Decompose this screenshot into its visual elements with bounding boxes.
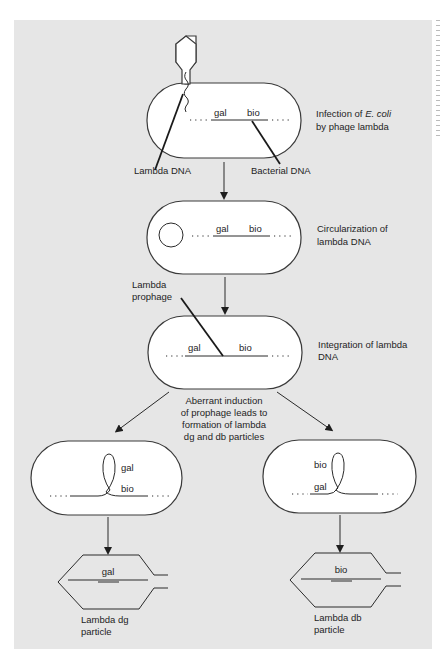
step-dg-particle: gal Lambda dg particle xyxy=(58,555,168,637)
caption-induction-line1: Aberrant induction xyxy=(185,395,262,406)
caption-infection-line2: by phage lambda xyxy=(316,121,390,132)
caption-dg-line1: Lambda dg xyxy=(81,614,129,625)
ecoli-cell xyxy=(263,440,416,513)
gene-label-bio: bio xyxy=(121,483,134,494)
gene-label-gal: gal xyxy=(216,223,229,234)
step-circularization: gal bio Circularization of lambda DNA xyxy=(147,201,388,274)
gene-label-bio: bio xyxy=(335,564,348,575)
caption-db-line2: particle xyxy=(314,624,345,635)
callout-lambda: Lambda xyxy=(132,279,167,290)
arrow-to-db xyxy=(277,392,330,429)
gene-label-gal: gal xyxy=(121,462,134,473)
caption-infection-line1: Infection of E. coli xyxy=(316,108,392,119)
ecoli-cell xyxy=(148,316,302,389)
step-integration: gal bio Lambda prophage Integration of l… xyxy=(132,279,408,389)
step-dg-excision: gal bio xyxy=(31,441,182,515)
gene-label-bio: bio xyxy=(247,107,260,118)
gene-label-bio: bio xyxy=(314,459,327,470)
gene-label-bio: bio xyxy=(239,342,252,353)
phage-head-db xyxy=(290,553,386,607)
arrow-to-dg xyxy=(118,392,169,430)
caption-integration-line2: DNA xyxy=(318,351,339,362)
gene-label-gal: gal xyxy=(314,481,327,492)
caption-integration-line1: Integration of lambda xyxy=(318,339,408,350)
step-infection: gal bio Lambda DNA Bacterial DNA Infecti… xyxy=(76,0,392,176)
caption-circularization-line2: lambda DNA xyxy=(317,236,372,247)
caption-induction-line2: of prophage leads to xyxy=(181,407,268,418)
callout-prophage: prophage xyxy=(132,291,172,302)
callout-lambda-dna: Lambda DNA xyxy=(134,165,192,176)
callout-bacterial-dna: Bacterial DNA xyxy=(251,165,311,176)
gene-label-gal: gal xyxy=(188,342,201,353)
step-db-excision: bio gal xyxy=(263,440,416,513)
caption-induction-line3: formation of lambda xyxy=(182,419,267,430)
gene-label-gal: gal xyxy=(102,566,115,577)
gene-label-gal: gal xyxy=(214,107,227,118)
step-aberrant-induction: Aberrant induction of prophage leads to … xyxy=(118,392,330,442)
caption-db-line1: Lambda db xyxy=(314,612,362,623)
caption-circularization-line1: Circularization of xyxy=(317,223,388,234)
phage-head xyxy=(176,36,196,84)
ecoli-cell xyxy=(147,201,301,274)
caption-induction-line4: dg and db particles xyxy=(184,431,265,442)
ecoli-cell xyxy=(31,441,182,515)
lambda-transduction-diagram: gal bio Lambda DNA Bacterial DNA Infecti… xyxy=(0,0,446,664)
caption-dg-line2: particle xyxy=(81,626,112,637)
step-db-particle: bio Lambda db particle xyxy=(290,553,401,635)
gene-label-bio: bio xyxy=(249,223,262,234)
